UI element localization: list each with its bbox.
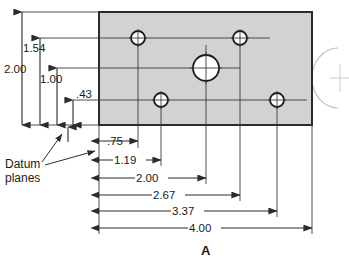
vdim-1-54-label: 1.54 [23, 42, 46, 54]
hdim-1-19-label: 1.19 [114, 154, 136, 166]
figure-label: A [201, 243, 211, 258]
technical-drawing: 2.00 1.54 1.00 .43 Datum planes [0, 0, 349, 268]
vdim-0-43-label: .43 [76, 88, 92, 100]
datum-planes-label-line2: planes [5, 171, 40, 185]
hdim-0-75-label: .75 [107, 135, 123, 147]
vdim-2-00-label: 2.00 [4, 63, 26, 75]
datum-planes-label-line1: Datum [5, 157, 40, 171]
hdim-4-00-label: 4.00 [189, 222, 211, 234]
hdim-3-37-label: 3.37 [172, 205, 194, 217]
vdim-1-00-label: 1.00 [40, 73, 62, 85]
drawing-canvas: 2.00 1.54 1.00 .43 Datum planes [0, 0, 349, 268]
hdim-2-00-label: 2.00 [136, 172, 158, 184]
hdim-2-67-label: 2.67 [153, 189, 175, 201]
